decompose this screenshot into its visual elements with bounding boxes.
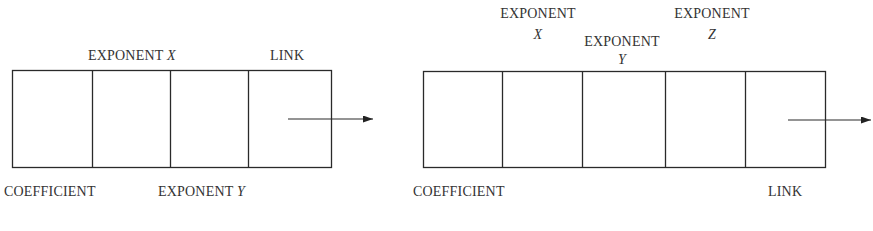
label-text: COEFFICIENT [4, 184, 96, 199]
polynomial-node-diagrams: EXPONENT X LINK COEFFICIENT EXPONENT Y E… [0, 0, 873, 231]
label-right-link: LINK [768, 184, 802, 200]
label-left-link: LINK [270, 48, 304, 64]
label-text: LINK [270, 48, 304, 63]
label-right-exponent-x: EXPONENT X [494, 6, 582, 43]
label-right-exponent-z: EXPONENT Z [668, 6, 756, 43]
label-text: EXPONENT [578, 34, 666, 50]
node-right-outline [424, 72, 826, 168]
label-variable: Z [668, 27, 756, 43]
label-variable: X [494, 27, 582, 43]
label-left-coefficient: COEFFICIENT [4, 184, 96, 200]
label-text: EXPONENT [88, 48, 163, 63]
node-right [424, 72, 872, 168]
node-left [13, 71, 374, 168]
label-right-exponent-y: EXPONENT Y [578, 34, 666, 68]
label-left-exponent-x: EXPONENT X [88, 48, 176, 64]
label-variable: X [167, 48, 176, 63]
label-left-exponent-y: EXPONENT Y [158, 184, 245, 200]
label-text: EXPONENT [668, 6, 756, 22]
label-variable: Y [237, 184, 245, 199]
label-text: EXPONENT [494, 6, 582, 22]
label-right-coefficient: COEFFICIENT [413, 184, 505, 200]
label-text: LINK [768, 184, 802, 199]
label-text: COEFFICIENT [413, 184, 505, 199]
node-left-outline [13, 71, 332, 168]
label-text: EXPONENT [158, 184, 233, 199]
label-variable: Y [578, 52, 666, 68]
